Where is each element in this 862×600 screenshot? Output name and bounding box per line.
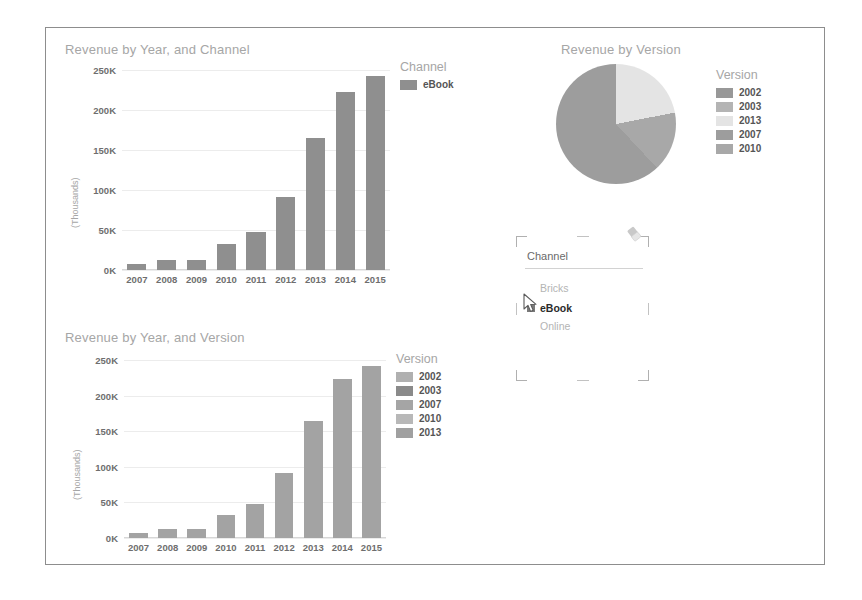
bar[interactable] xyxy=(336,92,355,270)
bar[interactable] xyxy=(306,138,325,270)
slicer-handle-bottom-left[interactable] xyxy=(516,370,527,381)
y-tick-label: 100K xyxy=(93,185,116,196)
legend-label: 2007 xyxy=(739,129,761,140)
visual-revenue-by-year-and-channel[interactable]: Revenue by Year, and Channel (Thousands)… xyxy=(60,38,460,318)
x-tick-label: 2009 xyxy=(182,274,212,285)
chart3-bars[interactable] xyxy=(124,360,386,538)
bar-column[interactable] xyxy=(299,360,328,538)
legend-item[interactable]: 2003 xyxy=(396,385,441,396)
slicer-item-ebook[interactable]: eBook xyxy=(527,302,572,314)
y-tick-label: 200K xyxy=(93,105,116,116)
x-tick-label: 2014 xyxy=(330,274,360,285)
bar[interactable] xyxy=(127,264,146,270)
legend-item[interactable]: 2002 xyxy=(396,371,441,382)
slicer-handle-right[interactable] xyxy=(648,303,649,315)
bar-column[interactable] xyxy=(330,70,360,270)
pie-legend-items[interactable]: 20022003201320072010 xyxy=(716,87,761,154)
legend-label: 2013 xyxy=(419,427,441,438)
legend-swatch xyxy=(716,130,733,140)
slicer-divider xyxy=(525,268,643,269)
bar-column[interactable] xyxy=(211,70,241,270)
bar[interactable] xyxy=(362,366,381,538)
chart3-legend-items[interactable]: 20022003200720102013 xyxy=(396,371,441,438)
bar[interactable] xyxy=(157,260,176,270)
slicer-title: Channel xyxy=(527,250,568,262)
bar-column[interactable] xyxy=(271,70,301,270)
legend-item[interactable]: 2007 xyxy=(716,129,761,140)
x-tick-label: 2012 xyxy=(270,542,299,553)
chart1-legend-items[interactable]: eBook xyxy=(400,79,454,90)
bar[interactable] xyxy=(304,421,323,538)
legend-swatch xyxy=(716,102,733,112)
bar[interactable] xyxy=(246,232,265,270)
slicer-item-online[interactable]: Online xyxy=(527,320,570,332)
slicer-checkbox[interactable] xyxy=(527,304,535,312)
chart1-y-axis-label: (Thousands) xyxy=(70,177,80,228)
x-tick-label: 2013 xyxy=(301,274,331,285)
bar-column[interactable] xyxy=(241,70,271,270)
bar[interactable] xyxy=(129,533,148,538)
bar[interactable] xyxy=(333,379,352,538)
legend-item[interactable]: 2013 xyxy=(716,115,761,126)
gridline: 0K xyxy=(122,270,390,271)
chart3-x-tick-labels: 200720082009201020112012201320142015 xyxy=(124,542,386,553)
visual-revenue-by-version[interactable]: Revenue by Version Version 2002200320132… xyxy=(501,36,811,206)
bar-column[interactable] xyxy=(152,70,182,270)
y-tick-label: 0K xyxy=(106,533,118,544)
bar-column[interactable] xyxy=(211,360,240,538)
slicer-handle-top-left[interactable] xyxy=(516,236,527,247)
legend-item[interactable]: 2007 xyxy=(396,399,441,410)
y-tick-label: 150K xyxy=(95,426,118,437)
bar[interactable] xyxy=(276,197,295,270)
bar-column[interactable] xyxy=(360,70,390,270)
legend-item[interactable]: 2010 xyxy=(716,143,761,154)
bar[interactable] xyxy=(187,260,206,270)
bar-column[interactable] xyxy=(153,360,182,538)
bar-column[interactable] xyxy=(301,70,331,270)
slicer-item-label: eBook xyxy=(540,302,572,314)
bar[interactable] xyxy=(275,473,294,538)
eraser-icon[interactable] xyxy=(624,224,646,246)
legend-item[interactable]: 2002 xyxy=(716,87,761,98)
slicer-item-label: Online xyxy=(540,320,570,332)
slicer-handle-top[interactable] xyxy=(577,236,589,237)
legend-item[interactable]: 2010 xyxy=(396,413,441,424)
bar[interactable] xyxy=(187,529,206,538)
bar-column[interactable] xyxy=(240,360,269,538)
bar-column[interactable] xyxy=(270,360,299,538)
bar-column[interactable] xyxy=(357,360,386,538)
legend-label: 2013 xyxy=(739,115,761,126)
legend-label: 2003 xyxy=(419,385,441,396)
y-tick-label: 250K xyxy=(93,65,116,76)
legend-item[interactable]: 2013 xyxy=(396,427,441,438)
legend-item[interactable]: 2003 xyxy=(716,101,761,112)
bar[interactable] xyxy=(217,244,236,270)
legend-item[interactable]: eBook xyxy=(400,79,454,90)
legend-label: 2003 xyxy=(739,101,761,112)
slicer-item-bricks[interactable]: Bricks xyxy=(527,282,569,294)
chart1-legend: Channel eBook xyxy=(400,60,454,93)
legend-label: 2007 xyxy=(419,399,441,410)
slicer-handle-bottom-right[interactable] xyxy=(638,370,649,381)
bar[interactable] xyxy=(158,529,177,538)
bar[interactable] xyxy=(366,76,385,270)
legend-swatch xyxy=(396,414,413,424)
x-tick-label: 2007 xyxy=(122,274,152,285)
chart1-x-tick-labels: 200720082009201020112012201320142015 xyxy=(122,274,390,285)
bar-column[interactable] xyxy=(122,70,152,270)
visual-revenue-by-year-and-version[interactable]: Revenue by Year, and Version (Thousands)… xyxy=(60,328,460,558)
y-tick-label: 0K xyxy=(104,265,116,276)
x-tick-label: 2008 xyxy=(152,274,182,285)
pie-chart[interactable] xyxy=(556,64,676,184)
bar[interactable] xyxy=(217,515,236,538)
bar-column[interactable] xyxy=(182,70,212,270)
slicer-handle-left[interactable] xyxy=(516,303,517,315)
bar[interactable] xyxy=(246,504,265,538)
chart1-bars[interactable] xyxy=(122,70,390,270)
bar-column[interactable] xyxy=(328,360,357,538)
x-tick-label: 2011 xyxy=(240,542,269,553)
channel-slicer[interactable]: Channel BrickseBookOnline xyxy=(516,236,649,381)
bar-column[interactable] xyxy=(124,360,153,538)
bar-column[interactable] xyxy=(182,360,211,538)
slicer-handle-bottom[interactable] xyxy=(577,380,589,381)
